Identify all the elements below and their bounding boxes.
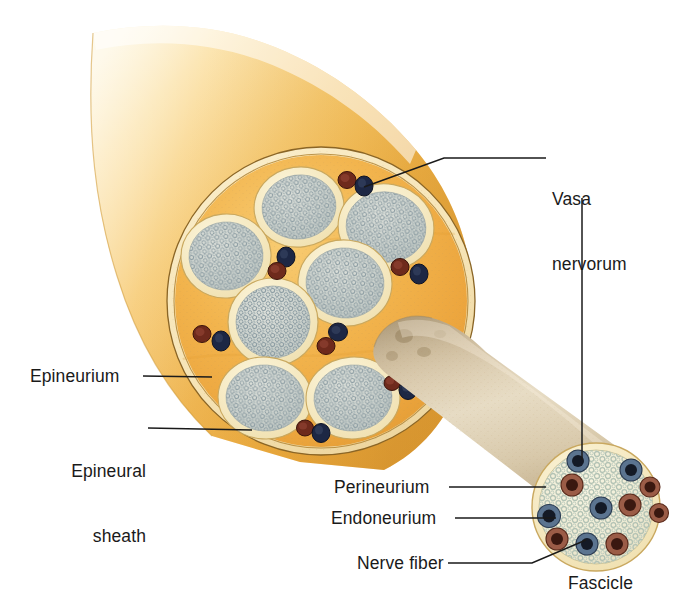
axon-core	[566, 479, 578, 491]
label-epineurium: Epineurium	[30, 366, 120, 388]
nerve-fiber	[590, 497, 612, 519]
nerve-fiber	[606, 533, 628, 555]
nerve-fiber	[561, 474, 583, 496]
nerve-fiber	[640, 477, 660, 497]
artery-lumen	[341, 174, 350, 182]
label-endoneurium: Endoneurium	[331, 508, 436, 530]
fascicle-mottle	[417, 347, 431, 357]
nerve-anatomy-figure: Vasa nervorum Epineurium Epineural sheat…	[0, 0, 689, 606]
nerve-fiber	[567, 450, 589, 472]
vein-lumen	[413, 267, 421, 276]
vein-lumen	[215, 334, 223, 343]
axon-core	[624, 499, 636, 511]
nerve-fiber	[538, 505, 561, 528]
vein-lumen	[280, 250, 288, 259]
label-epineural-sheath-line1: Epineural	[20, 461, 146, 483]
artery-lumen	[299, 423, 307, 430]
artery-lumen	[271, 265, 280, 273]
label-epineural-sheath: Epineural sheath	[20, 418, 146, 592]
vein-lumen	[315, 426, 323, 435]
label-perineurium: Perineurium	[334, 477, 429, 499]
label-fascicle: Fascicle	[568, 573, 633, 595]
nerve-fiber	[576, 533, 598, 555]
fascicle	[228, 278, 318, 366]
nerve-fiber	[546, 528, 568, 550]
nerve-fiber	[650, 504, 669, 523]
artery-lumen	[320, 340, 329, 348]
artery-lumen	[196, 328, 205, 336]
nerve-fiber	[620, 459, 642, 481]
label-epineural-sheath-line2: sheath	[20, 526, 146, 548]
axon-core	[543, 510, 556, 523]
axon-core	[581, 538, 593, 550]
fascicle-mottle	[386, 351, 398, 361]
label-vasa-nervorum-line1: Vasa	[552, 189, 627, 211]
label-vasa-nervorum: Vasa nervorum	[552, 146, 627, 320]
axon-core	[625, 464, 637, 476]
axon-core	[654, 508, 664, 518]
axon-core	[645, 482, 656, 493]
epineurium-leader	[143, 376, 212, 377]
nerve-fiber	[619, 494, 641, 516]
axon-core	[551, 533, 563, 545]
axon-core	[595, 502, 607, 514]
axon-core	[611, 538, 623, 550]
endoneurium-texture	[236, 286, 310, 358]
vein-lumen	[332, 326, 341, 334]
distal-fascicle	[532, 443, 669, 571]
label-nerve-fiber: Nerve fiber	[357, 553, 444, 575]
label-vasa-nervorum-line2: nervorum	[552, 254, 627, 276]
artery-lumen	[394, 261, 403, 269]
